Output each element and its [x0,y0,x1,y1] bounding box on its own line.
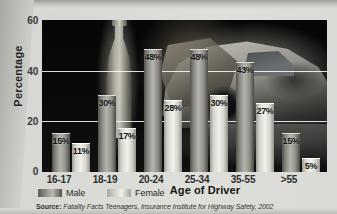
chart-legend: Male Female [38,188,165,198]
bar-female-3555[interactable]: 27% [256,103,274,172]
legend-item-female[interactable]: Female [107,188,164,198]
bottle-cap-photo [112,20,127,26]
bar-male-3555[interactable]: 43% [236,62,254,172]
bar-value-label: 30% [210,98,227,108]
bar-value-label: 17% [118,131,135,141]
bar-female-2534[interactable]: 30% [210,95,228,172]
plot-area: 15%11%30%17%48%28%48%30%43%27%15%5% [42,20,327,172]
female-swatch-icon [107,189,131,197]
x-axis-tick-over-55: >55 [259,174,319,185]
page-background: Percentage 60 40 20 0 15%11%30%17%48%28%… [0,0,337,214]
gridline-40 [42,71,327,72]
bar-value-label: 28% [164,103,181,113]
bar-value-label: 11% [73,146,90,156]
bar-male-55[interactable]: 15% [282,133,300,172]
source-text: Fatality Facts Teenagers, Insurance Inst… [63,203,273,210]
legend-label-female: Female [135,188,164,198]
source-prefix: Source: [36,203,61,210]
y-axis-tick-60: 60 [0,15,38,26]
y-axis-tick-20: 20 [0,116,38,127]
bar-male-1617[interactable]: 15% [52,133,70,172]
bar-male-1819[interactable]: 30% [98,95,116,172]
bar-male-2024[interactable]: 48% [144,49,162,172]
page-top-edge [0,0,337,9]
bar-male-2534[interactable]: 48% [190,49,208,172]
bar-value-label: 48% [144,52,161,62]
legend-item-male[interactable]: Male [38,188,85,198]
bar-value-label: 5% [305,161,317,171]
gridline-20 [42,121,327,122]
x-axis-label: Age of Driver [150,184,260,196]
male-swatch-icon [38,189,62,197]
bar-female-55[interactable]: 5% [302,158,320,172]
bar-value-label: 43% [236,65,253,75]
bar-value-label: 27% [256,106,273,116]
bar-value-label: 48% [190,52,207,62]
legend-label-male: Male [66,188,85,198]
bar-female-1819[interactable]: 17% [118,128,136,172]
bar-value-label: 15% [282,136,299,146]
bar-female-1617[interactable]: 11% [72,143,90,172]
bar-value-label: 15% [52,136,69,146]
bar-value-label: 30% [98,98,115,108]
bar-female-2024[interactable]: 28% [164,100,182,172]
source-note: Source: Fatality Facts Teenagers, Insura… [36,203,331,210]
y-axis-tick-40: 40 [0,66,38,77]
